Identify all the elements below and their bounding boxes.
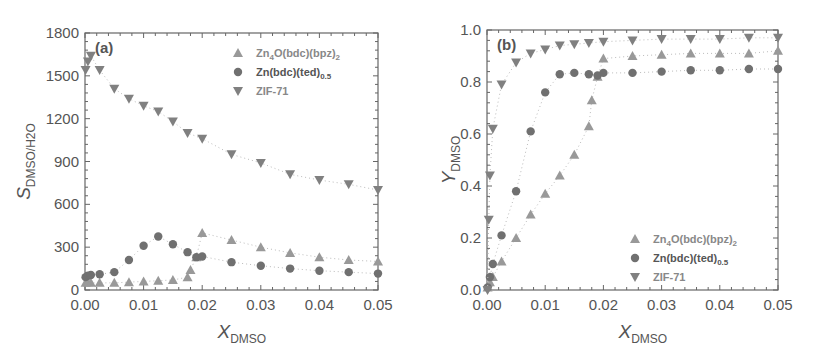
data-point <box>197 135 207 144</box>
data-point <box>185 265 195 274</box>
data-point <box>555 171 565 180</box>
data-point <box>584 121 594 130</box>
data-point <box>374 269 382 277</box>
x-tick-label: 0.03 <box>647 296 676 313</box>
legend-marker-icon <box>233 48 243 57</box>
x-tick-label: 0.02 <box>188 296 217 313</box>
data-point <box>540 46 550 55</box>
x-tick-label: 0.02 <box>589 296 618 313</box>
data-point <box>227 150 237 159</box>
data-point <box>744 48 754 57</box>
data-point <box>109 85 119 94</box>
data-point <box>774 65 782 73</box>
data-point <box>541 88 549 96</box>
y-tick-label: 1500 <box>46 67 79 84</box>
y-tick-label: 1.0 <box>460 21 481 38</box>
legend-marker-icon <box>234 68 242 76</box>
data-point <box>124 277 134 286</box>
data-point <box>587 95 597 104</box>
data-point <box>585 70 593 78</box>
data-point <box>227 258 235 266</box>
data-point <box>488 125 498 134</box>
data-point <box>345 268 353 276</box>
x-tick-label: 0.05 <box>363 296 392 313</box>
data-point <box>257 262 265 270</box>
data-point <box>168 118 178 127</box>
panel-label: (b) <box>497 36 516 53</box>
legend-label: ZIF-71 <box>256 85 288 97</box>
data-point <box>87 271 95 279</box>
x-tick-label: 0.00 <box>70 296 99 313</box>
data-point <box>744 34 754 43</box>
data-point <box>95 278 105 287</box>
data-point <box>285 248 295 257</box>
y-tick-label: 0.4 <box>460 177 481 194</box>
data-point <box>344 180 354 189</box>
y-tick-label: 0.2 <box>460 229 481 246</box>
data-point <box>489 260 497 268</box>
x-tick-label: 0.04 <box>705 296 734 313</box>
data-point <box>139 242 147 250</box>
y-tick-label: 900 <box>54 153 79 170</box>
legend-marker-icon <box>631 254 639 262</box>
data-point <box>599 69 607 77</box>
y-axis-title: SDMSO/H2O <box>13 123 38 200</box>
data-point <box>657 67 665 75</box>
data-point <box>168 275 178 284</box>
data-point <box>497 256 507 265</box>
data-point <box>686 35 696 44</box>
panel-label: (a) <box>95 39 113 56</box>
data-point <box>570 69 578 77</box>
data-point <box>286 264 294 272</box>
y-tick-label: 1200 <box>46 110 79 127</box>
legend-label: Zn(bdc)(ted)0.5 <box>653 252 729 267</box>
x-axis-title: XDMSO <box>618 321 668 346</box>
x-tick-label: 0.01 <box>531 296 560 313</box>
data-point <box>526 210 536 219</box>
data-point <box>569 150 579 159</box>
data-point <box>598 54 608 63</box>
y-tick-label: 0.8 <box>460 73 481 90</box>
x-tick-label: 0.05 <box>763 296 792 313</box>
data-point <box>569 40 579 49</box>
x-axis-title: XDMSO <box>217 321 267 346</box>
data-point <box>484 216 494 225</box>
legend-label: Zn4O(bdc)(bpz)2 <box>653 233 738 248</box>
data-point <box>497 81 507 90</box>
legend-label: Zn4O(bdc)(bpz)2 <box>256 47 341 62</box>
data-point <box>154 232 162 240</box>
figure: 0.000.010.020.030.040.050300600900120015… <box>0 0 816 358</box>
data-point <box>314 176 324 185</box>
plot-frame <box>85 33 378 290</box>
legend-label: Zn(bdc)(ted)0.5 <box>256 66 332 81</box>
data-point <box>183 129 193 138</box>
data-point <box>314 252 324 261</box>
x-tick-label: 0.03 <box>246 296 275 313</box>
data-point <box>526 127 534 135</box>
data-point <box>344 255 354 264</box>
data-point <box>95 66 105 75</box>
data-point <box>686 48 696 57</box>
data-point <box>773 46 783 55</box>
data-point <box>511 59 521 68</box>
x-tick-label: 0.01 <box>129 296 158 313</box>
data-point <box>657 50 667 59</box>
data-point <box>183 248 191 256</box>
y-tick-label: 0.6 <box>460 125 481 142</box>
data-point <box>540 189 550 198</box>
series-line <box>488 51 778 288</box>
data-point <box>526 49 536 58</box>
legend-marker-icon <box>630 234 640 243</box>
data-point <box>153 108 163 117</box>
data-point <box>511 233 521 242</box>
data-point <box>110 268 118 276</box>
data-point <box>584 39 594 48</box>
series-line <box>86 56 378 190</box>
data-point <box>745 65 753 73</box>
panel-a-chart: 0.000.010.020.030.040.050300600900120015… <box>13 24 393 346</box>
data-point <box>227 235 237 244</box>
legend-label: ZIF-71 <box>653 271 685 283</box>
data-point <box>169 240 177 248</box>
data-point <box>197 228 207 237</box>
data-point <box>315 267 323 275</box>
